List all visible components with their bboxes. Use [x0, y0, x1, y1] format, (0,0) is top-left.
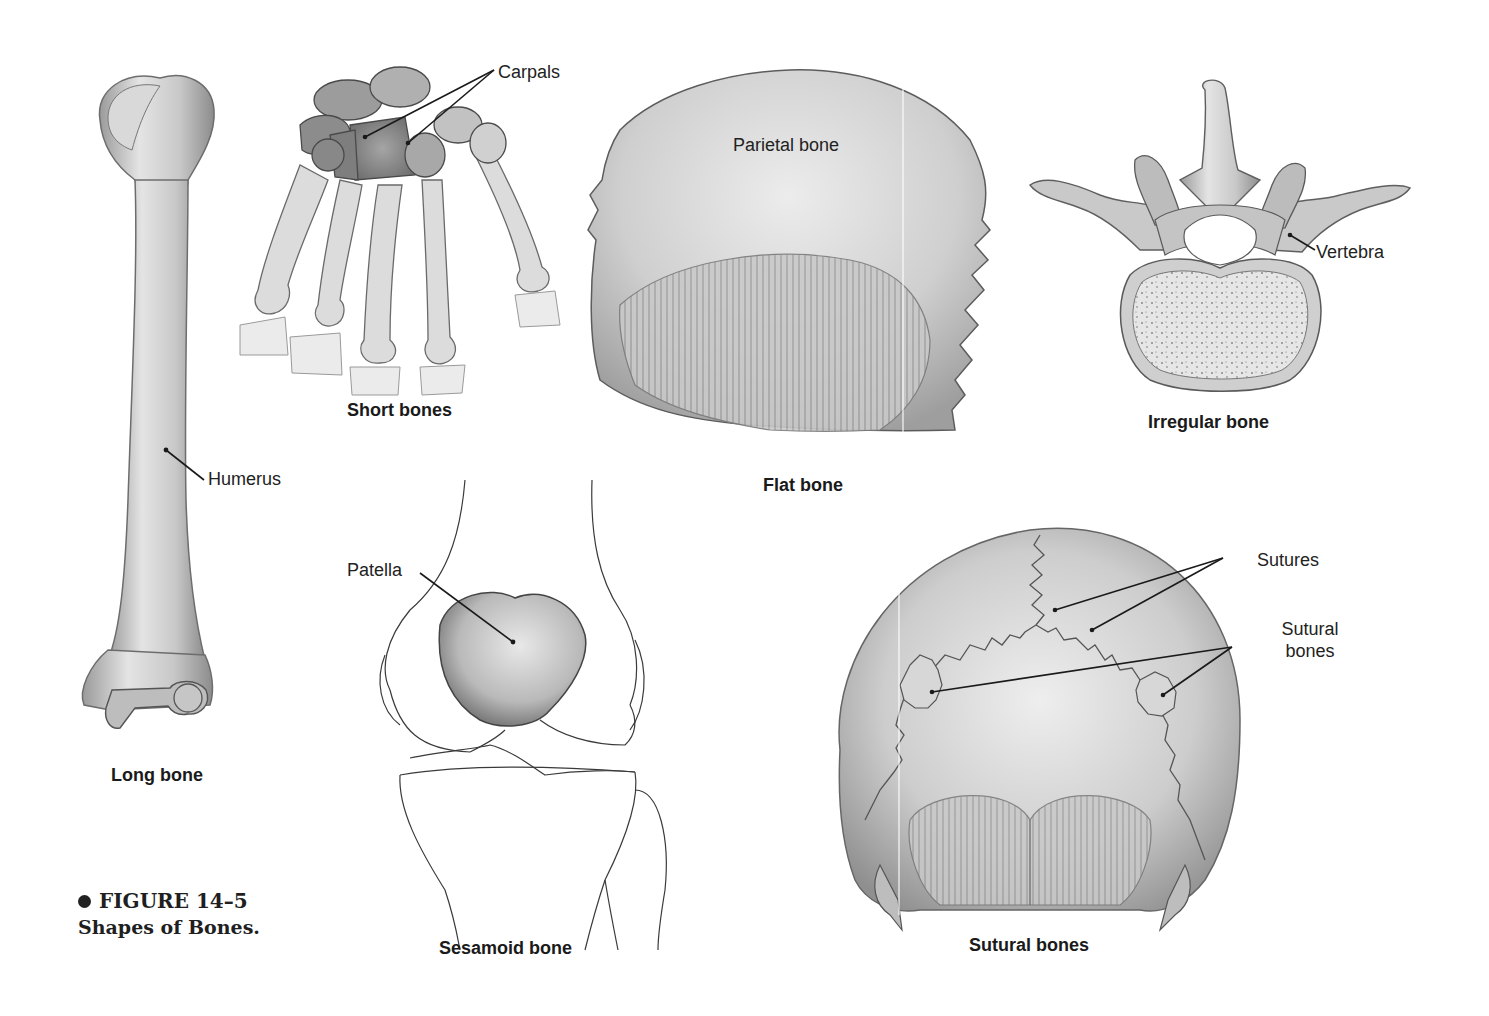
- patella-label: Patella: [347, 560, 402, 581]
- short-bones-panel: Carpals Short bones: [230, 55, 590, 435]
- bullet-icon: [78, 895, 91, 908]
- parietal-bone-illustration: [580, 60, 1020, 500]
- irregular-bone-caption: Irregular bone: [1148, 412, 1269, 433]
- sesamoid-bone-caption: Sesamoid bone: [439, 938, 572, 959]
- flat-bone-caption: Flat bone: [763, 475, 843, 496]
- hand-illustration: [230, 55, 590, 435]
- parietal-bone-label: Parietal bone: [733, 135, 839, 156]
- irregular-bone-panel: Vertebra Irregular bone: [1020, 70, 1420, 450]
- flat-bone-panel: Parietal bone Flat bone: [580, 60, 1020, 500]
- short-bones-caption: Short bones: [347, 400, 452, 421]
- long-bone-caption: Long bone: [111, 765, 203, 786]
- figure-title: Shapes of Bones.: [78, 914, 260, 940]
- sutures-label: Sutures: [1257, 550, 1319, 571]
- sutural-bones-label: Sutural bones: [1277, 618, 1343, 662]
- knee-illustration: [340, 480, 680, 970]
- humerus-label: Humerus: [208, 469, 281, 490]
- sesamoid-bone-panel: Patella Sesamoid bone: [340, 480, 680, 970]
- sutural-bones-panel: Sutures Sutural bones Sutural bones: [820, 520, 1380, 960]
- sutural-bones-caption: Sutural bones: [969, 935, 1089, 956]
- figure-number: FIGURE 14–5: [99, 888, 248, 914]
- figure-caption: FIGURE 14–5 Shapes of Bones.: [78, 888, 260, 940]
- carpals-label: Carpals: [498, 62, 560, 83]
- vertebra-label: Vertebra: [1316, 242, 1384, 263]
- skull-illustration: [820, 520, 1380, 960]
